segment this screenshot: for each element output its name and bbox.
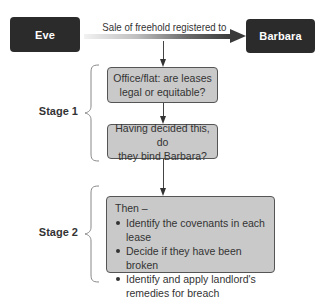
- lease-type-question-box: Office/flat: are leases legal or equitab…: [107, 67, 218, 103]
- stage2-heading: Then –: [115, 201, 268, 215]
- connector-line: [163, 159, 164, 189]
- transfer-arrow-label: Sale of freehold registered to: [100, 21, 229, 33]
- arrow-down-icon: [160, 59, 166, 67]
- stage2-steps-box: Then – Identify the covenants in each le…: [106, 196, 275, 273]
- box1-line2: legal or equitable?: [113, 85, 211, 99]
- stage1-label: Stage 1: [18, 105, 78, 117]
- eve-node: Eve: [10, 17, 80, 52]
- barbara-label: Barbara: [259, 30, 301, 42]
- transfer-arrow-shaft: [84, 34, 232, 39]
- barbara-node: Barbara: [246, 19, 315, 53]
- arrow-down-icon: [160, 188, 166, 196]
- box2-line1: Having decided this, do: [108, 121, 217, 149]
- stage1-brace-icon: [82, 64, 102, 162]
- stage2-bullet: Identify the covenants in each lease: [115, 216, 268, 244]
- stage2-brace-icon: [82, 185, 102, 283]
- binding-question-box: Having decided this, do they bind Barbar…: [107, 124, 218, 159]
- eve-label: Eve: [35, 29, 55, 41]
- stage2-label: Stage 2: [18, 226, 78, 238]
- stage2-bullet: Decide if they have been broken: [115, 244, 268, 272]
- stage2-bullet: Identify and apply landlord's remedies f…: [115, 272, 268, 300]
- transfer-arrow-head-icon: [230, 29, 246, 43]
- connector-line: [163, 103, 164, 117]
- connector-line: [163, 41, 164, 60]
- box1-line1: Office/flat: are leases: [113, 71, 211, 85]
- stage2-bullet-list: Identify the covenants in each lease Dec…: [115, 216, 268, 300]
